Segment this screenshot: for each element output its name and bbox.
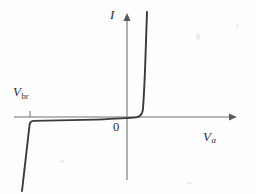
iv-characteristic-figure: I Va Vbr 0 bbox=[0, 0, 256, 194]
voltage-axis-label: Va bbox=[203, 130, 216, 145]
diode-iv-curve-path bbox=[22, 12, 147, 191]
voltage-axis-label-main: V bbox=[203, 129, 211, 144]
breakdown-voltage-label: Vbr bbox=[13, 85, 29, 100]
voltage-axis-label-subscript: a bbox=[211, 135, 216, 145]
current-axis-label: I bbox=[110, 8, 114, 21]
origin-label: 0 bbox=[113, 121, 119, 134]
breakdown-voltage-label-subscript: br bbox=[21, 91, 28, 101]
breakdown-voltage-label-main: V bbox=[13, 84, 21, 99]
iv-curve-plot bbox=[0, 0, 256, 194]
y-axis-arrowhead bbox=[123, 13, 130, 21]
x-axis-arrowhead bbox=[229, 113, 237, 120]
